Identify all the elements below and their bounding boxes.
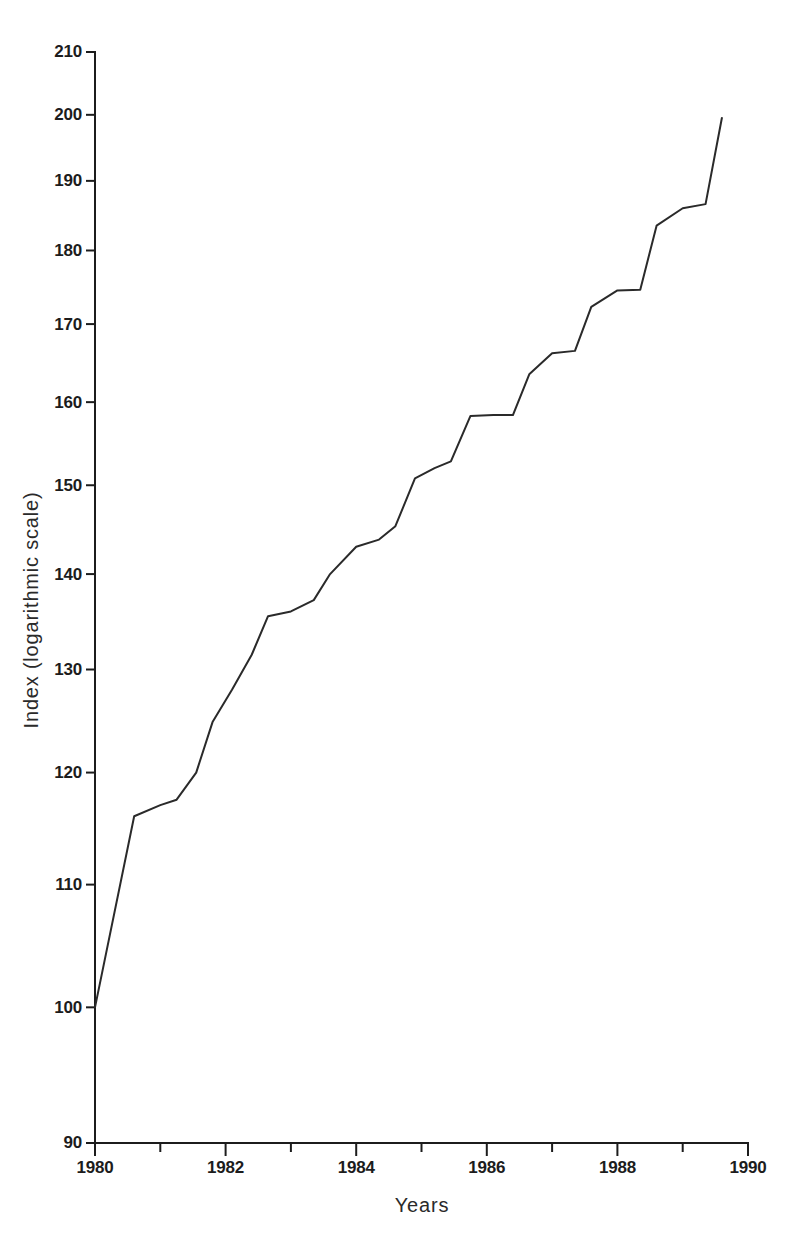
y-tick-label: 130 — [54, 660, 82, 679]
y-tick-label: 100 — [54, 998, 82, 1017]
y-tick-label: 170 — [54, 315, 82, 334]
x-tick-label: 1988 — [599, 1158, 636, 1177]
x-axis-title: Years — [395, 1194, 449, 1216]
y-tick-label: 160 — [54, 393, 82, 412]
y-tick-label: 190 — [54, 171, 82, 190]
index-data-line — [95, 118, 722, 1007]
y-tick-label: 200 — [54, 105, 82, 124]
x-tick-label: 1990 — [729, 1158, 766, 1177]
x-tick-label: 1986 — [468, 1158, 505, 1177]
y-axis-title: Index (logarithmic scale) — [20, 492, 42, 729]
x-axis-tick-labels: 198019821984198619881990 — [76, 1158, 766, 1177]
chart-figure: 90100110120130140150160170180190200210 1… — [0, 0, 801, 1244]
line-chart-svg: 90100110120130140150160170180190200210 1… — [0, 0, 801, 1244]
y-axis-tick-labels: 90100110120130140150160170180190200210 — [54, 42, 82, 1152]
y-tick-label: 90 — [63, 1133, 82, 1152]
y-tick-label: 140 — [54, 565, 82, 584]
x-tick-label: 1984 — [338, 1158, 376, 1177]
x-tick-label: 1982 — [207, 1158, 244, 1177]
y-tick-label: 110 — [55, 875, 82, 894]
y-tick-label: 210 — [54, 42, 82, 61]
y-tick-label: 120 — [54, 763, 82, 782]
y-axis-ticks — [86, 52, 95, 1143]
x-axis-ticks — [95, 1143, 748, 1156]
x-tick-label: 1980 — [76, 1158, 113, 1177]
y-tick-label: 180 — [54, 241, 82, 260]
y-tick-label: 150 — [54, 476, 82, 495]
